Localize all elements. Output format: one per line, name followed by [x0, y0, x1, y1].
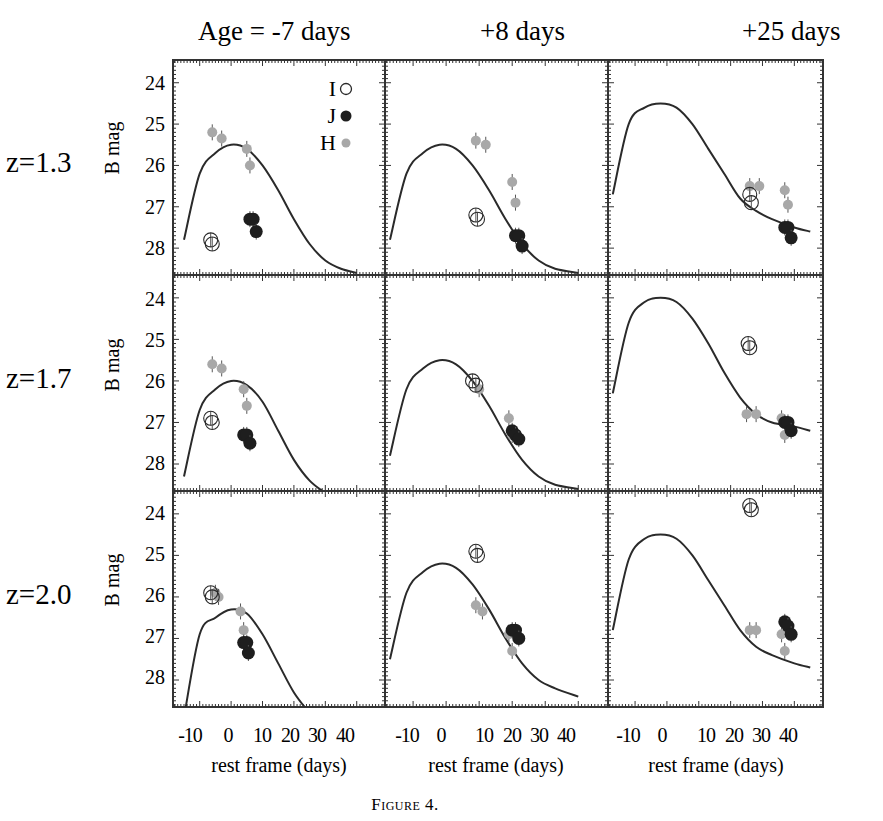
svg-text:25: 25	[145, 113, 165, 135]
model-light-curve	[390, 360, 578, 489]
J-band-point	[242, 647, 255, 660]
model-light-curve	[184, 381, 325, 493]
J-band-point	[785, 231, 798, 244]
svg-text:0: 0	[224, 724, 234, 746]
svg-text:40: 40	[336, 724, 355, 746]
H-band-point	[217, 363, 227, 373]
H-band-point	[217, 134, 227, 144]
H-band-point	[477, 606, 487, 616]
svg-text:28: 28	[145, 666, 165, 688]
svg-text:28: 28	[145, 237, 165, 259]
row-label-1: z=1.3	[6, 146, 71, 178]
axis-ticks	[608, 275, 823, 491]
panel	[385, 275, 608, 491]
svg-text:26: 26	[145, 370, 165, 392]
svg-text:30: 30	[530, 724, 549, 746]
svg-text:20: 20	[503, 724, 522, 746]
y-ticks-row-2: 24 25 26 27 28	[145, 288, 165, 474]
svg-text:0: 0	[437, 724, 447, 746]
legend: I J H	[320, 76, 351, 155]
H-band-point	[507, 177, 517, 187]
J-band-point	[250, 225, 263, 238]
H-band-point	[236, 606, 246, 616]
J-band-point	[512, 632, 525, 645]
x-axis-label-3: rest frame (days)	[648, 754, 784, 777]
panel-frame	[385, 275, 608, 491]
svg-text:-10: -10	[178, 724, 203, 746]
svg-text:40: 40	[557, 724, 576, 746]
svg-text:20: 20	[281, 724, 300, 746]
H-band-point	[780, 185, 790, 195]
legend-label-I: I	[329, 76, 336, 101]
svg-text:-10: -10	[395, 724, 420, 746]
svg-text:30: 30	[752, 724, 771, 746]
panel	[173, 491, 385, 717]
H-band-point	[780, 646, 790, 656]
panel-frame	[385, 491, 608, 707]
figure: Age = -7 days +8 days +25 days z=1.3 z=1…	[0, 0, 883, 821]
svg-text:20: 20	[725, 724, 744, 746]
y-axis-label-2: B mag	[101, 339, 124, 392]
figure-caption: Figure 4.	[371, 795, 439, 814]
panel-frame	[173, 275, 385, 491]
x-ticks-col-2: -10 0 10 20 30 40	[395, 724, 576, 746]
model-light-curve	[613, 103, 810, 231]
axis-ticks	[385, 275, 608, 491]
J-band-point	[247, 213, 260, 226]
row-label-3: z=2.0	[6, 578, 71, 610]
model-light-curve	[613, 535, 810, 668]
column-title-2: +8 days	[480, 16, 565, 46]
panel-frame	[608, 491, 823, 707]
panel	[173, 60, 385, 275]
legend-open-circle-icon	[341, 84, 352, 95]
H-band-point	[507, 646, 517, 656]
x-axis-label-1: rest frame (days)	[211, 754, 347, 777]
panel-frame	[173, 491, 385, 707]
axis-ticks	[173, 275, 385, 491]
y-ticks-row-3: 24 25 26 27 28	[145, 502, 165, 688]
H-band-point	[245, 160, 255, 170]
panel-grid	[173, 60, 823, 717]
legend-label-H: H	[320, 130, 336, 155]
x-ticks-col-3: -10 0 10 20 30 40	[616, 724, 798, 746]
model-light-curve	[390, 564, 578, 697]
svg-text:26: 26	[145, 584, 165, 606]
J-band-point	[516, 240, 529, 253]
legend-label-J: J	[327, 103, 336, 128]
svg-text:27: 27	[145, 196, 165, 218]
axis-ticks	[608, 491, 823, 707]
legend-filled-circle-icon	[341, 111, 352, 122]
legend-gray-circle-icon	[342, 139, 351, 148]
panel	[385, 491, 608, 707]
axis-ticks	[173, 491, 385, 707]
svg-text:24: 24	[145, 502, 165, 524]
panel-frame	[608, 275, 823, 491]
model-light-curve	[613, 298, 810, 431]
H-band-point	[242, 144, 252, 154]
H-band-point	[742, 409, 752, 419]
svg-text:24: 24	[145, 72, 165, 94]
y-axis-label-3: B mag	[101, 554, 124, 607]
x-axis-label-2: rest frame (days)	[428, 754, 564, 777]
H-band-point	[239, 625, 249, 635]
H-band-point	[783, 200, 793, 210]
J-band-point	[243, 437, 256, 450]
axis-ticks	[385, 491, 608, 707]
svg-text:0: 0	[658, 724, 668, 746]
svg-text:10: 10	[253, 724, 272, 746]
H-band-point	[751, 409, 761, 419]
H-band-point	[504, 413, 514, 423]
svg-text:24: 24	[145, 288, 165, 310]
svg-text:28: 28	[145, 452, 165, 474]
H-band-point	[751, 625, 761, 635]
H-band-point	[754, 181, 764, 191]
panel	[608, 60, 823, 275]
row-label-2: z=1.7	[6, 362, 71, 394]
y-ticks-row-1: 24 25 26 27 28	[145, 72, 165, 259]
H-band-point	[242, 401, 252, 411]
panel-frame	[385, 60, 608, 275]
J-band-point	[785, 424, 798, 437]
column-title-1: Age = -7 days	[198, 16, 350, 46]
H-band-point	[239, 384, 249, 394]
J-band-point	[785, 628, 798, 641]
